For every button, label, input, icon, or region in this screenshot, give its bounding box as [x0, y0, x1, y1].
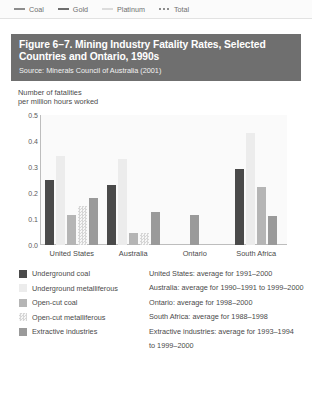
- top-legend-label-coal: Coal: [29, 5, 44, 14]
- bar: [56, 156, 65, 244]
- y-axis-title-line2: per million hours worked: [18, 97, 295, 106]
- legend-swatch-icon: [19, 328, 27, 336]
- figure-note-continuation: to 1999–2000: [149, 339, 304, 354]
- line-solid-icon: [102, 8, 113, 10]
- figure-source: Source: Minerals Council of Australia (2…: [19, 66, 294, 76]
- y-tick-label: 0.0: [17, 241, 38, 248]
- y-tick-label: 0.4: [17, 137, 38, 144]
- bar: [89, 198, 98, 245]
- bar-group: [103, 115, 165, 245]
- line-dotted-icon: [159, 8, 170, 10]
- y-axis-title-line1: Number of fatalities: [18, 88, 295, 97]
- x-tick-label: United States: [41, 246, 103, 261]
- x-tick-label: Australia: [103, 246, 165, 261]
- figure-title: Figure 6–7. Mining Industry Fatality Rat…: [19, 39, 294, 64]
- top-legend: Coal Gold Platinum Total: [0, 0, 312, 19]
- bar: [235, 169, 244, 244]
- legend-item-label: Underground metalliferous: [32, 284, 118, 293]
- bar-groups: [41, 115, 287, 245]
- y-tick-label: 0.3: [17, 163, 38, 170]
- y-tick-label: 0.5: [17, 111, 38, 118]
- bar: [268, 216, 277, 245]
- chart-legend: Underground coalUnderground metalliferou…: [19, 267, 147, 354]
- y-tick-label: 0.2: [17, 189, 38, 196]
- figure-note-line: South Africa: average for 1988–1998: [149, 310, 304, 325]
- y-axis-title: Number of fatalities per million hours w…: [18, 88, 295, 107]
- legend-item: Extractive industries: [19, 325, 147, 340]
- top-legend-label-platinum: Platinum: [117, 5, 145, 14]
- bar-group: [226, 115, 288, 245]
- bar: [151, 212, 160, 245]
- top-legend-label-gold: Gold: [73, 5, 88, 14]
- bar-group: [41, 115, 103, 245]
- figure-card: Figure 6–7. Mining Industry Fatality Rat…: [11, 34, 301, 386]
- bar: [118, 159, 127, 245]
- bar: [129, 233, 138, 245]
- bar: [257, 187, 266, 244]
- y-tick-label: 0.1: [17, 215, 38, 222]
- legend-item-label: Underground coal: [32, 269, 90, 278]
- figure-header: Figure 6–7. Mining Industry Fatality Rat…: [11, 34, 301, 81]
- top-legend-item-coal: Coal: [14, 5, 44, 14]
- bar: [140, 233, 149, 245]
- bar: [107, 185, 116, 245]
- bar: [246, 133, 255, 245]
- legend-swatch-icon: [19, 284, 27, 292]
- legend-item-label: Open-cut metalliferous: [32, 313, 105, 322]
- x-axis-labels: United StatesAustraliaOntarioSouth Afric…: [41, 246, 287, 261]
- line-solid-icon: [14, 8, 25, 10]
- bar: [67, 215, 76, 245]
- legend-swatch-icon: [19, 270, 27, 278]
- x-tick-label: Ontario: [164, 246, 226, 261]
- figure-note-line: Australia: average for 1990–1991 to 1999…: [149, 281, 304, 296]
- top-legend-item-total: Total: [159, 5, 189, 14]
- top-legend-item-gold: Gold: [58, 5, 88, 14]
- bar-chart: 0.00.10.20.30.40.5 United StatesAustrali…: [17, 111, 289, 261]
- legend-item-label: Extractive industries: [32, 327, 97, 336]
- bar-group: [164, 115, 226, 245]
- legend-swatch-icon: [19, 299, 27, 307]
- legend-item-label: Open-cut coal: [32, 298, 77, 307]
- figure-note-line: United States: average for 1991–2000: [149, 267, 304, 282]
- bar: [78, 206, 87, 245]
- bar: [190, 215, 199, 245]
- x-tick-label: South Africa: [226, 246, 288, 261]
- legend-item: Open-cut metalliferous: [19, 310, 147, 325]
- legend-item: Underground metalliferous: [19, 281, 147, 296]
- legend-item: Open-cut coal: [19, 296, 147, 311]
- plot-wrapper: Number of fatalities per million hours w…: [11, 81, 301, 261]
- legend-swatch-icon: [19, 313, 27, 321]
- line-solid-icon: [58, 8, 69, 11]
- figure-note-line: Extractive industries: average for 1993–…: [149, 325, 304, 340]
- top-legend-item-platinum: Platinum: [102, 5, 145, 14]
- bar: [45, 180, 54, 245]
- figure-footer: Underground coalUnderground metalliferou…: [11, 261, 301, 354]
- top-legend-label-total: Total: [174, 5, 189, 14]
- legend-item: Underground coal: [19, 267, 147, 282]
- figure-notes: United States: average for 1991–2000Aust…: [147, 267, 304, 354]
- figure-note-line: Ontario: average for 1998–2000: [149, 296, 304, 311]
